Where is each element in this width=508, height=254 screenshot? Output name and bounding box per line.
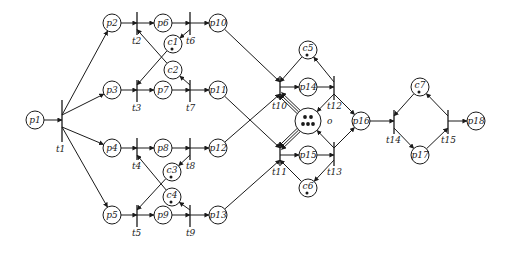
place-p6[interactable]: p6	[154, 14, 172, 32]
place-label: p16	[352, 116, 369, 126]
place-c4[interactable]: c4	[163, 188, 181, 206]
arc-t1-to-p4	[62, 127, 104, 145]
arc-c4-to-t4	[137, 155, 166, 190]
token	[309, 115, 313, 119]
place-c6[interactable]: c6	[299, 179, 317, 197]
place-label: c4	[167, 190, 178, 200]
arc-t9-to-c4	[179, 202, 190, 210]
transition-t12[interactable]: t12	[327, 76, 342, 111]
transition-t5[interactable]: t5	[132, 205, 142, 238]
transition-label: t7	[186, 103, 196, 113]
place-label: p10	[209, 18, 226, 28]
transition-label: t14	[386, 135, 401, 145]
place-p11[interactable]: p11	[209, 81, 227, 99]
place-label: p5	[106, 210, 118, 220]
place-label: p13	[209, 210, 226, 220]
place-label: p8	[157, 143, 169, 153]
transition-t10[interactable]: t10	[272, 76, 287, 111]
transition-label: t13	[327, 167, 342, 177]
transition-t2[interactable]: t2	[132, 12, 142, 46]
transition-t1[interactable]: t1	[56, 100, 65, 154]
transitions-layer: t1t2t3t4t5t6t7t8t9t10t11t12t13t14t15	[56, 12, 456, 238]
place-c3[interactable]: c3	[163, 163, 181, 181]
place-label: c7	[415, 80, 426, 90]
token	[171, 48, 174, 51]
place-label: c6	[303, 181, 314, 191]
place-p2[interactable]: p2	[103, 14, 121, 32]
place-p9[interactable]: p9	[154, 206, 172, 224]
place-label: p15	[299, 150, 316, 160]
place-label: p7	[157, 85, 169, 95]
transition-label: t8	[186, 161, 196, 171]
place-c1[interactable]: c1	[164, 35, 182, 53]
transition-label: t11	[272, 167, 287, 177]
transition-label: t5	[132, 228, 142, 238]
token	[306, 192, 309, 195]
arc-p10-to-t10	[225, 29, 280, 82]
token	[170, 176, 173, 179]
place-label: c5	[303, 43, 314, 53]
transition-t6[interactable]: t6	[186, 12, 196, 46]
place-p18[interactable]: p18	[467, 112, 485, 130]
arc-c7-to-t14	[394, 94, 414, 116]
place-c5[interactable]: c5	[299, 41, 317, 59]
place-label: p18	[467, 116, 484, 126]
transition-t9[interactable]: t9	[186, 205, 196, 238]
token	[170, 201, 173, 204]
place-p10[interactable]: p10	[209, 14, 227, 32]
transition-label: t3	[132, 103, 142, 113]
arc-t7-to-c2	[180, 76, 190, 85]
place-p8[interactable]: p8	[154, 139, 172, 157]
place-p7[interactable]: p7	[154, 81, 172, 99]
arc-t15-to-c7	[426, 93, 448, 116]
place-p5[interactable]: p5	[103, 206, 121, 224]
transition-t8[interactable]: t8	[186, 138, 196, 171]
places-layer: p1p2p3p4p5p6p7p8p9c1c2c3c4p10p11p12p13c5…	[26, 14, 485, 224]
place-p15[interactable]: p15	[299, 146, 317, 164]
token	[311, 122, 315, 126]
transition-t14[interactable]: t14	[386, 110, 401, 145]
place-p3[interactable]: p3	[103, 81, 121, 99]
transition-t3[interactable]: t3	[132, 80, 142, 113]
place-c2[interactable]: c2	[164, 61, 182, 79]
arc-c5-to-t10	[280, 57, 302, 82]
transition-label: t1	[56, 144, 65, 154]
place-label: p6	[157, 18, 169, 28]
place-label: p12	[209, 143, 226, 153]
place-label: c3	[167, 165, 178, 175]
place-p14[interactable]: p14	[299, 78, 317, 96]
place-p13[interactable]: p13	[209, 206, 227, 224]
place-p12[interactable]: p12	[209, 139, 227, 157]
place-p4[interactable]: p4	[103, 139, 121, 157]
transition-label: t15	[441, 135, 456, 145]
place-p17[interactable]: p17	[411, 146, 429, 164]
place-p1[interactable]: p1	[26, 111, 44, 129]
place-label: p14	[299, 82, 316, 92]
arc-t13-to-o	[317, 130, 334, 148]
arc-t1-to-p3	[62, 94, 104, 115]
place-c7[interactable]: c7	[411, 78, 429, 96]
arc-t1-to-p5	[62, 127, 108, 207]
place-label: p11	[209, 85, 226, 95]
place-circle[interactable]	[295, 108, 321, 134]
place-p16[interactable]: p16	[352, 112, 370, 130]
place-label: p1	[29, 115, 41, 125]
transition-t11[interactable]: t11	[272, 142, 287, 177]
arc-c3-to-t5	[137, 179, 166, 210]
place-label: c1	[168, 37, 179, 47]
place-o[interactable]: o	[295, 108, 333, 134]
token	[303, 115, 307, 119]
token	[306, 122, 310, 126]
transition-t15[interactable]: t15	[441, 110, 456, 145]
transition-label: t9	[186, 228, 196, 238]
transition-label: t12	[327, 101, 342, 111]
arcs-layer	[44, 23, 467, 215]
transition-label: t4	[132, 161, 142, 171]
petri-net-diagram: t1t2t3t4t5t6t7t8t9t10t11t12t13t14t15 p1p…	[0, 0, 508, 254]
place-label: p4	[106, 143, 118, 153]
transition-t4[interactable]: t4	[132, 138, 142, 171]
token	[418, 91, 421, 94]
token	[301, 122, 305, 126]
place-label: p3	[106, 85, 118, 95]
transition-t7[interactable]: t7	[186, 80, 196, 113]
